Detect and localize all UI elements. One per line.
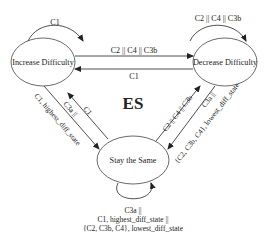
- center-label-es: ES: [123, 94, 144, 113]
- state-decrease-difficulty: Decrease Difficulty: [193, 38, 258, 86]
- state-increase-difficulty: Increase Difficulty: [11, 38, 75, 86]
- label-increase-to-decrease: C2 || C4 || C3b: [111, 46, 157, 55]
- label-same-to-increase: C1: [81, 104, 94, 117]
- label-decrease-self: C2 || C4 || C3b: [195, 14, 241, 23]
- state-label-increase: Increase Difficulty: [12, 58, 74, 67]
- state-diagram: Increase Difficulty Decrease Difficulty …: [0, 0, 270, 243]
- state-label-decrease: Decrease Difficulty: [193, 58, 258, 67]
- label-same-self-line1: C3a ||: [125, 206, 142, 215]
- state-label-same: Stay the Same: [110, 156, 157, 165]
- label-same-to-decrease: C2 || C4 || C3b: [160, 93, 194, 133]
- label-increase-to-same-line2: C1, highest_diff_state: [32, 91, 83, 147]
- label-same-self-line3: {C2, C3b, C4}, lowest_diff_state: [83, 224, 184, 233]
- transition-same-self: [117, 183, 152, 199]
- state-stay-the-same: Stay the Same: [97, 136, 169, 184]
- label-same-self-line2: C1, highest_diff_state ||: [98, 215, 169, 224]
- label-increase-self: C1: [50, 18, 59, 27]
- label-decrease-to-increase: C1: [129, 72, 138, 81]
